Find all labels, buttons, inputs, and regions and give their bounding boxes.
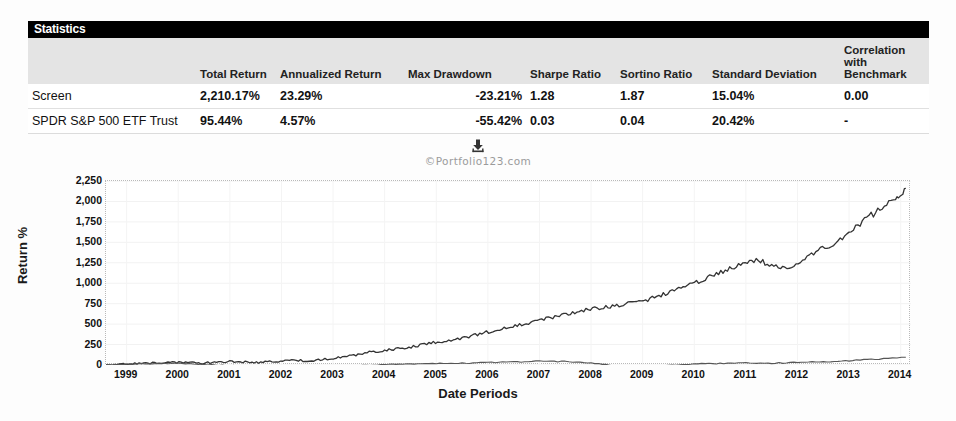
cell-max-drawdown: -23.21% [404,84,526,109]
column-header-total-return: Total Return [196,38,276,84]
x-tick-label: 2014 [888,368,911,380]
statistics-panel: Statistics Total Return Annualized Retur… [28,21,929,134]
cell-sharpe-ratio: 0.03 [526,109,616,134]
x-tick-label: 2002 [269,368,292,380]
x-tick-label: 2007 [527,368,550,380]
x-tick-label: 2009 [630,368,653,380]
table-row: Screen 2,210.17% 23.29% -23.21% 1.28 1.8… [28,84,929,109]
y-tick-label: 2,250 [76,174,102,186]
plot-area [105,180,910,364]
row-label-screen: Screen [28,84,196,109]
cell-total-return: 2,210.17% [196,84,276,109]
cell-max-drawdown: -55.42% [404,109,526,134]
table-header-row: Total Return Annualized Return Max Drawd… [28,38,929,84]
x-axis-title: Date Periods [0,386,956,401]
x-tick-label: 2013 [836,368,859,380]
cell-sharpe-ratio: 1.28 [526,84,616,109]
x-tick-label: 2003 [320,368,343,380]
x-tick-label: 2010 [682,368,705,380]
watermark-text: ©Portfolio123.com [0,155,956,167]
x-axis-ticks: 1999200020012002200320042005200620072008… [105,368,910,384]
cell-annualized-return: 23.29% [276,84,404,109]
cell-standard-deviation: 15.04% [708,84,840,109]
download-icon[interactable] [471,139,485,154]
column-header-correlation-with-benchmark: Correlation with Benchmark [840,38,929,84]
chart-line-series-1 [106,357,906,365]
x-tick-label: 2011 [733,368,756,380]
x-tick-label: 2008 [578,368,601,380]
y-tick-label: 1,500 [76,235,102,247]
y-tick-label: 750 [84,297,102,309]
chart-tools: ©Portfolio123.com [0,139,956,167]
chart-line-series-0 [106,188,906,365]
y-tick-label: 250 [84,338,102,350]
cell-sortino-ratio: 0.04 [616,109,708,134]
y-tick-label: 0 [96,358,102,370]
cell-annualized-return: 4.57% [276,109,404,134]
x-tick-label: 2005 [424,368,447,380]
cell-total-return: 95.44% [196,109,276,134]
x-tick-label: 2000 [166,368,189,380]
column-header-max-drawdown: Max Drawdown [404,38,526,84]
cell-sortino-ratio: 1.87 [616,84,708,109]
x-tick-label: 2012 [785,368,808,380]
column-header-sharpe-ratio: Sharpe Ratio [526,38,616,84]
statistics-table: Total Return Annualized Return Max Drawd… [28,38,929,134]
cell-correlation: - [840,109,929,134]
row-label-spdr: SPDR S&P 500 ETF Trust [28,109,196,134]
y-tick-label: 1,000 [76,276,102,288]
column-header-standard-deviation: Standard Deviation [708,38,840,84]
column-header-annualized-return: Annualized Return [276,38,404,84]
y-tick-label: 1,250 [76,256,102,268]
y-tick-label: 500 [84,317,102,329]
y-axis-ticks: 2,2502,0001,7501,5001,2501,0007505002500 [52,180,102,364]
panel-title: Statistics [28,21,929,38]
column-header-name [28,38,196,84]
table-row: SPDR S&P 500 ETF Trust 95.44% 4.57% -55.… [28,109,929,134]
y-axis-title: Return % [15,216,30,296]
cell-correlation: 0.00 [840,84,929,109]
x-tick-label: 2006 [475,368,498,380]
y-tick-label: 2,000 [76,194,102,206]
chart-svg [106,181,911,365]
cell-standard-deviation: 20.42% [708,109,840,134]
y-tick-label: 1,750 [76,215,102,227]
x-tick-label: 1999 [114,368,137,380]
x-tick-label: 2004 [372,368,395,380]
x-tick-label: 2001 [217,368,240,380]
column-header-sortino-ratio: Sortino Ratio [616,38,708,84]
